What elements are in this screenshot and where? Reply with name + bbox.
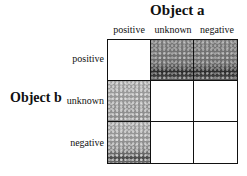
matrix-grid: [107, 39, 238, 164]
cell-neg-neg: [194, 122, 237, 163]
cell-unknown-unknown: [151, 81, 194, 122]
column-label-unknown: unknown: [151, 24, 195, 35]
row-label-unknown: unknown: [67, 95, 104, 106]
cell-unknown-pos: [108, 81, 151, 122]
cell-pos-unknown: [151, 40, 194, 81]
cell-pos-pos: [108, 40, 151, 81]
cell-neg-pos: [108, 122, 151, 163]
object-b-title: Object b: [10, 90, 62, 106]
cell-neg-unknown: [151, 122, 194, 163]
cell-unknown-neg: [194, 81, 237, 122]
row-label-positive: positive: [72, 53, 104, 64]
column-label-negative: negative: [195, 24, 239, 35]
cell-pos-neg: [194, 40, 237, 81]
object-a-title: Object a: [150, 2, 205, 19]
column-label-positive: positive: [107, 24, 151, 35]
row-label-negative: negative: [70, 137, 104, 148]
